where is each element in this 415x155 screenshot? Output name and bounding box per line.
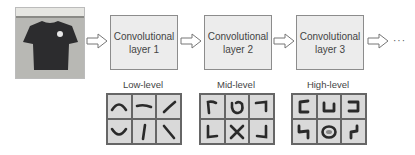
corner-bottom-left-icon bbox=[202, 122, 222, 142]
feature-cell bbox=[156, 94, 181, 119]
layer-name: Convolutional bbox=[300, 30, 361, 43]
slash-icon bbox=[159, 97, 179, 117]
feature-cell bbox=[317, 119, 342, 144]
bracket-right-icon bbox=[344, 97, 364, 117]
feature-cell bbox=[225, 119, 250, 144]
feature-cell bbox=[132, 119, 157, 144]
cross-icon bbox=[227, 122, 247, 142]
layer-name: Convolutional bbox=[208, 30, 269, 43]
feature-cell bbox=[249, 94, 274, 119]
tshirt-icon bbox=[16, 8, 84, 78]
hook-icon bbox=[294, 122, 314, 142]
dash-icon bbox=[134, 97, 154, 117]
low-level-features bbox=[106, 93, 182, 145]
low-level-label: Low-level bbox=[105, 79, 181, 90]
arrow-icon bbox=[86, 33, 108, 49]
feature-cell bbox=[107, 119, 132, 144]
arc-bottom-icon bbox=[109, 122, 129, 142]
layer-name: Convolutional bbox=[114, 30, 175, 43]
continuation-dots: ··· bbox=[393, 35, 406, 46]
logo-circle-icon bbox=[319, 122, 339, 142]
squiggle-icon bbox=[344, 122, 364, 142]
feature-cell bbox=[317, 94, 342, 119]
cup-icon bbox=[319, 97, 339, 117]
arrow-icon bbox=[367, 33, 389, 49]
corner-top-right-icon bbox=[252, 97, 272, 117]
feature-cell bbox=[249, 119, 274, 144]
bracket-left-icon bbox=[294, 97, 314, 117]
feature-cell bbox=[200, 94, 225, 119]
conv-layer-2: Convolutional layer 2 bbox=[204, 15, 272, 70]
feature-cell bbox=[292, 119, 317, 144]
arrow-icon bbox=[273, 33, 295, 49]
feature-cell bbox=[156, 119, 181, 144]
feature-cell bbox=[292, 94, 317, 119]
loop-icon bbox=[227, 97, 247, 117]
layer-number: layer 1 bbox=[129, 43, 159, 56]
feature-cell bbox=[107, 94, 132, 119]
high-level-label: High-level bbox=[290, 79, 366, 90]
conv-layer-1: Convolutional layer 1 bbox=[110, 15, 178, 70]
layer-number: layer 2 bbox=[223, 43, 253, 56]
feature-cell bbox=[225, 94, 250, 119]
conv-layer-3: Convolutional layer 3 bbox=[296, 15, 364, 70]
feature-cell bbox=[341, 94, 366, 119]
feature-cell bbox=[200, 119, 225, 144]
corner-bottom-right-icon bbox=[252, 122, 272, 142]
layer-number: layer 3 bbox=[315, 43, 345, 56]
corner-top-left-icon bbox=[202, 97, 222, 117]
backslash-icon bbox=[159, 122, 179, 142]
feature-cell bbox=[341, 119, 366, 144]
mid-level-label: Mid-level bbox=[198, 79, 274, 90]
mid-level-features bbox=[199, 93, 275, 145]
input-image bbox=[15, 7, 85, 79]
vertical-stroke-icon bbox=[134, 122, 154, 142]
arc-top-icon bbox=[109, 97, 129, 117]
arrow-icon bbox=[180, 33, 202, 49]
high-level-features bbox=[291, 93, 367, 145]
feature-cell bbox=[132, 94, 157, 119]
